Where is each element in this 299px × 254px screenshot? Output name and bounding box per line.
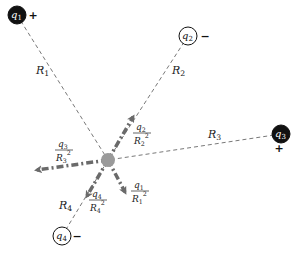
electric-field-diagram: q1+q2−q3+q4− R1R2R3R4q1R12q2R22q3R32q4R4… (0, 0, 299, 254)
negative-sign-icon: − (72, 230, 81, 243)
field-label-e3: q3R32 (55, 139, 73, 164)
charge-q2: q2− (179, 27, 210, 45)
labels: R1R2R3R4q1R12q2R22q3R32q4R42 (35, 64, 221, 214)
distance-label-r2: R2 (171, 64, 185, 78)
distance-line-q2 (108, 36, 188, 160)
distance-label-r3: R3 (207, 128, 221, 142)
field-vector-e3 (37, 160, 108, 170)
field-label-e1: q1R12 (131, 180, 149, 205)
field-denominator: R42 (89, 199, 105, 214)
charge-q1: q1+ (8, 6, 38, 24)
distance-label-r1: R1 (35, 64, 49, 78)
field-label-e4: q4R42 (89, 189, 107, 214)
positive-sign-icon: + (274, 142, 283, 155)
field-denominator: R22 (133, 132, 149, 147)
charges: q1+q2−q3+q4− (8, 6, 290, 245)
test-point-dot (101, 153, 115, 167)
field-denominator: R32 (55, 149, 71, 164)
field-label-e2: q2R22 (133, 122, 151, 147)
field-vectors (37, 117, 133, 196)
field-denominator: R12 (131, 190, 147, 205)
charge-q3: q3+ (272, 125, 290, 155)
positive-sign-icon: + (28, 9, 37, 22)
charge-q4: q4− (53, 227, 82, 245)
distance-label-r4: R4 (58, 199, 72, 213)
negative-sign-icon: − (200, 30, 209, 43)
distance-lines (17, 15, 281, 236)
test-point (101, 153, 115, 167)
